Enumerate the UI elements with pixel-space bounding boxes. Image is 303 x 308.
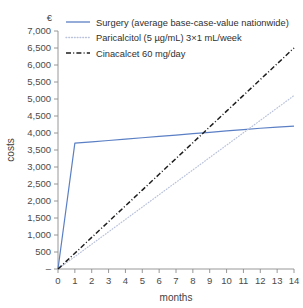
- x-axis-title: months: [160, 292, 193, 303]
- series-line-0: [58, 126, 294, 269]
- y-tick-label: 6,000: [27, 59, 51, 70]
- y-tick-label: 4,500: [27, 110, 51, 121]
- x-tick-label: 9: [207, 275, 212, 286]
- x-tick-label: 13: [272, 275, 283, 286]
- x-tick-label: 11: [238, 275, 248, 286]
- y-tick-label: –: [46, 263, 52, 274]
- y-tick-label: 6,500: [27, 42, 51, 53]
- x-tick-label: 10: [221, 275, 232, 286]
- x-tick-label: 8: [190, 275, 195, 286]
- y-tick-label: 1,000: [27, 229, 51, 240]
- x-tick-label: 2: [89, 275, 94, 286]
- x-tick-label: 14: [289, 275, 300, 286]
- x-tick-label: 5: [140, 275, 145, 286]
- x-tick-label: 7: [173, 275, 178, 286]
- series-line-2: [58, 48, 294, 269]
- y-tick-label: 5,500: [27, 76, 51, 87]
- y-tick-label: 500: [35, 246, 51, 257]
- y-tick-label: 7,000: [27, 25, 51, 36]
- series-line-1: [58, 96, 294, 269]
- x-tick-label: 3: [106, 275, 111, 286]
- series-group: [58, 48, 294, 269]
- x-tick-label: 1: [72, 275, 77, 286]
- y-tick-label: 5,000: [27, 93, 51, 104]
- line-chart: €–5001,0001,5002,0002,5003,0003,5004,000…: [0, 0, 303, 308]
- y-tick-label: 2,500: [27, 178, 51, 189]
- y-tick-label: 3,500: [27, 144, 51, 155]
- legend: Surgery (average base-case-value nationw…: [66, 18, 289, 59]
- x-tick-label: 12: [255, 275, 266, 286]
- x-tick-label: 4: [123, 275, 128, 286]
- x-tick-label: 6: [156, 275, 161, 286]
- x-axis: 01234567891011121314: [55, 269, 299, 286]
- y-tick-label: 3,000: [27, 161, 51, 172]
- y-axis-title: costs: [5, 138, 16, 161]
- legend-label-0: Surgery (average base-case-value nationw…: [96, 18, 289, 28]
- legend-label-1: Paricalcitol (5 µg/mL) 3×1 mL/week: [96, 33, 242, 43]
- legend-label-2: Cinacalcet 60 mg/day: [96, 49, 186, 59]
- x-tick-label: 0: [55, 275, 60, 286]
- y-tick-label: 1,500: [27, 212, 51, 223]
- y-tick-label: 2,000: [27, 195, 51, 206]
- chart-canvas: €–5001,0001,5002,0002,5003,0003,5004,000…: [0, 0, 303, 308]
- y-axis: –5001,0001,5002,0002,5003,0003,5004,0004…: [27, 25, 58, 274]
- y-tick-label: 4,000: [27, 127, 51, 138]
- y-axis-unit: €: [47, 12, 53, 23]
